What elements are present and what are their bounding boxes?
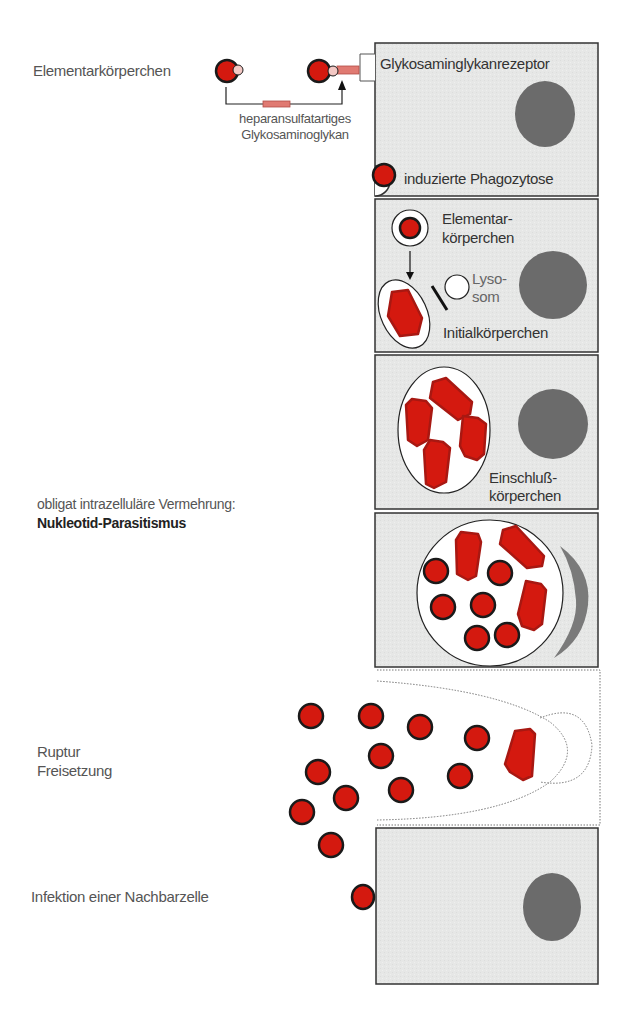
panel-new-cell [352, 828, 598, 984]
label-initial: Initialkörperchen [443, 324, 548, 341]
nucleus-icon [519, 251, 587, 319]
nucleus-icon [515, 81, 575, 147]
panel-rupture [377, 670, 600, 825]
elementary-body-icon [373, 164, 395, 186]
nucleus-icon [523, 873, 581, 941]
label-replication: obligat intrazelluläre Vermehrung: [37, 495, 235, 513]
label-lyso-line2: som [472, 288, 499, 305]
label-eb-line1: Elementar- [442, 210, 512, 227]
nucleus-icon [518, 389, 588, 459]
glycan-arrow [226, 80, 346, 107]
panel-inclusion [375, 355, 598, 509]
elementary-body-free [216, 60, 243, 82]
label-parasitism: Nukleotid-Parasitismus [37, 514, 186, 532]
elementary-body-bound [308, 60, 359, 82]
label-inclusion-line2: körperchen [489, 487, 561, 504]
label-inclusion-line1: Einschluß- [489, 469, 557, 486]
label-glycan-line2: Glykosaminoglykan [230, 127, 360, 143]
label-release: Freisetzung [37, 762, 112, 780]
label-phagocytosis: induzierte Phagozytose [404, 170, 553, 187]
label-rupture: Ruptur [37, 743, 80, 761]
label-receptor: Glykosaminglykanrezeptor [380, 55, 550, 72]
label-eb-line2: körperchen [442, 229, 514, 246]
label-infection: Infektion einer Nachbarzelle [31, 888, 209, 906]
label-glycan-line1: heparansulfatartiges [230, 111, 360, 127]
label-lyso-line1: Lyso- [472, 270, 507, 287]
label-elementary-bodies: Elementarkörperchen [33, 62, 171, 80]
panel-redifferentiation [375, 513, 598, 667]
label-glycan: heparansulfatartiges Glykosaminoglykan [230, 111, 360, 143]
